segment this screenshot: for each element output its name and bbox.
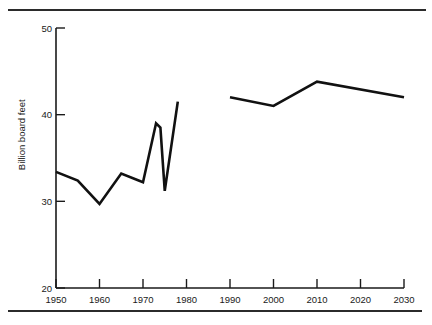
axis-lines: [56, 28, 404, 288]
x-tick-label-1990: 1990: [210, 295, 250, 305]
x-tick-label-1960: 1960: [80, 295, 120, 305]
y-axis-ticks: [56, 28, 65, 288]
y-tick-label-40: 40: [30, 110, 52, 120]
x-tick-label-1950: 1950: [36, 295, 76, 305]
x-tick-label-1970: 1970: [123, 295, 163, 305]
series-line-historical: [56, 102, 178, 204]
y-tick-label-30: 30: [30, 197, 52, 207]
x-tick-label-1980: 1980: [167, 295, 207, 305]
x-tick-label-2000: 2000: [254, 295, 294, 305]
series-line-projected: [230, 82, 404, 106]
x-axis-ticks: [56, 279, 404, 288]
plot-area: [0, 0, 432, 325]
y-tick-label-50: 50: [30, 24, 52, 34]
x-tick-label-2010: 2010: [297, 295, 337, 305]
x-tick-label-2030: 2030: [384, 295, 424, 305]
y-tick-label-20: 20: [30, 284, 52, 294]
x-tick-label-2020: 2020: [341, 295, 381, 305]
chart-figure: Billion board feet 50 40 30 20 1950: [0, 0, 432, 325]
